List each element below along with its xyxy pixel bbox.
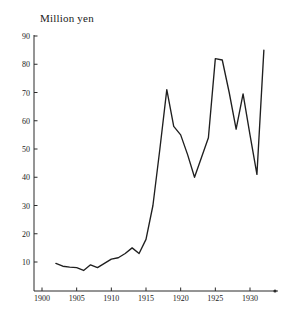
x-tick-label: 1915 — [138, 294, 154, 303]
y-tick-label: 90 — [22, 32, 30, 41]
y-tick-label: 70 — [22, 89, 30, 98]
x-tick-label: 1920 — [173, 294, 189, 303]
x-tick-label: 1925 — [207, 294, 223, 303]
x-tick-label: 1905 — [69, 294, 85, 303]
x-tick-label: 1910 — [103, 294, 119, 303]
chart-plot-area: 102030405060708090 190019051910191519201… — [0, 0, 290, 318]
x-axis: 1900190519101915192019251930 — [34, 288, 278, 303]
y-axis-ticks: 102030405060708090 — [22, 32, 38, 267]
data-series-line — [56, 50, 264, 270]
y-tick-label: 80 — [22, 60, 30, 69]
y-tick-label: 60 — [22, 117, 30, 126]
x-tick-label: 1900 — [34, 294, 50, 303]
x-axis-ticks: 1900190519101915192019251930 — [34, 288, 258, 303]
y-tick-label: 40 — [22, 173, 30, 182]
y-axis: 102030405060708090 — [22, 32, 38, 291]
y-tick-label: 10 — [22, 258, 30, 267]
x-axis-end-marker — [273, 289, 276, 292]
line-chart: Million yen 102030405060708090 190019051… — [0, 0, 290, 318]
x-tick-label: 1930 — [242, 294, 258, 303]
y-tick-label: 30 — [22, 202, 30, 211]
y-tick-label: 50 — [22, 145, 30, 154]
y-tick-label: 20 — [22, 230, 30, 239]
